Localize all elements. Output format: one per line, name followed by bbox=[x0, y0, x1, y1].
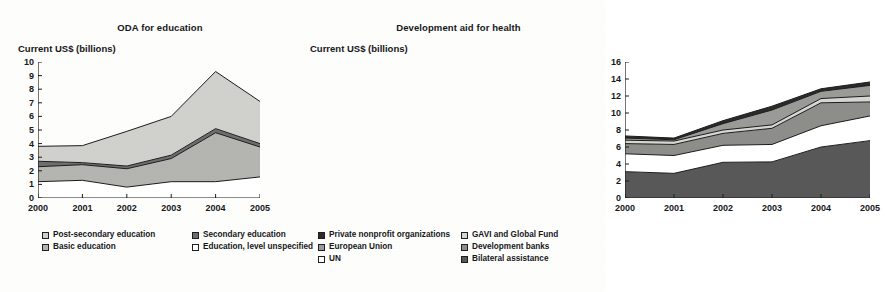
legend-health: Private nonprofit organizations GAVI and… bbox=[318, 231, 558, 264]
y-tick-label: 0 bbox=[16, 193, 34, 203]
legend-item-label: Bilateral assistance bbox=[472, 255, 548, 263]
y-tick-label: 9 bbox=[16, 71, 34, 81]
chart-title-health: Development aid for health bbox=[300, 22, 611, 33]
legend-swatch-icon bbox=[461, 256, 468, 263]
x-tick-label: 2001 bbox=[66, 203, 98, 213]
legend-item-basic-education: Basic education bbox=[42, 243, 192, 251]
legend-swatch-icon bbox=[461, 232, 468, 239]
legend-item-education-level-unspecified: Education, level unspecified bbox=[192, 243, 313, 251]
y-tick-label: 2 bbox=[603, 176, 621, 186]
legend-swatch-icon bbox=[42, 244, 49, 251]
y-tick-label: 5 bbox=[16, 125, 34, 135]
x-tick-label: 2002 bbox=[111, 203, 143, 213]
legend-item-european-union: European Union bbox=[318, 243, 461, 251]
legend-item-secondary-education: Secondary education bbox=[192, 231, 313, 239]
y-tick-label: 8 bbox=[16, 84, 34, 94]
legend-swatch-icon bbox=[318, 232, 325, 239]
legend-swatch-icon bbox=[192, 232, 199, 239]
x-tick-label: 2004 bbox=[805, 203, 837, 213]
legend-item-label: Basic education bbox=[53, 243, 116, 251]
y-tick-label: 3 bbox=[16, 152, 34, 162]
legend-swatch-icon bbox=[318, 256, 325, 263]
x-tick-label: 2003 bbox=[155, 203, 187, 213]
y-tick-label: 12 bbox=[603, 91, 621, 101]
y-tick-label: 4 bbox=[603, 159, 621, 169]
y-tick-label: 2 bbox=[16, 166, 34, 176]
y-tick-label: 14 bbox=[603, 74, 621, 84]
y-tick-label: 8 bbox=[603, 125, 621, 135]
y-tick-label: 0 bbox=[603, 193, 621, 203]
x-tick-label: 2005 bbox=[854, 203, 885, 213]
area-chart-health bbox=[625, 62, 870, 198]
x-tick-label: 2002 bbox=[707, 203, 739, 213]
legend-item-post-secondary-education: Post-secondary education bbox=[42, 231, 192, 239]
legend-item-gavi-and-global-fund: GAVI and Global Fund bbox=[461, 231, 558, 239]
legend-item-label: European Union bbox=[329, 243, 392, 251]
y-tick-label: 6 bbox=[603, 142, 621, 152]
legend-item-label: Education, level unspecified bbox=[203, 243, 313, 251]
legend-item-un: UN bbox=[318, 255, 461, 263]
y-tick-label: 6 bbox=[16, 111, 34, 121]
x-tick-label: 2001 bbox=[658, 203, 690, 213]
legend-item-label: UN bbox=[329, 255, 341, 263]
legend-education: Post-secondary education Secondary educa… bbox=[42, 231, 313, 251]
y-tick-label: 1 bbox=[16, 179, 34, 189]
y-tick-label: 4 bbox=[16, 139, 34, 149]
x-tick-label: 2000 bbox=[22, 203, 54, 213]
plot-area-health bbox=[625, 62, 870, 198]
legend-swatch-icon bbox=[192, 244, 199, 251]
chart-title-education: ODA for education bbox=[0, 22, 310, 33]
legend-swatch-icon bbox=[42, 232, 49, 239]
y-axis-caption-health: Current US$ (billions) bbox=[310, 43, 408, 54]
legend-item-bilateral-assistance: Bilateral assistance bbox=[461, 255, 558, 263]
x-tick-label: 2005 bbox=[244, 203, 276, 213]
y-tick-label: 10 bbox=[603, 108, 621, 118]
area-chart-education bbox=[38, 62, 260, 198]
x-tick-label: 2004 bbox=[200, 203, 232, 213]
legend-item-private-nonprofit-organizations: Private nonprofit organizations bbox=[318, 231, 461, 239]
y-axis-caption-education: Current US$ (billions) bbox=[18, 43, 116, 54]
plot-area-education bbox=[38, 62, 260, 198]
x-tick-label: 2000 bbox=[609, 203, 641, 213]
legend-item-label: Development banks bbox=[472, 243, 549, 251]
legend-item-label: Private nonprofit organizations bbox=[329, 231, 450, 239]
legend-swatch-icon bbox=[318, 244, 325, 251]
x-tick-label: 2003 bbox=[756, 203, 788, 213]
legend-item-label: Secondary education bbox=[203, 231, 286, 239]
legend-item-label: GAVI and Global Fund bbox=[472, 231, 558, 239]
y-tick-label: 10 bbox=[16, 57, 34, 67]
legend-item-development-banks: Development banks bbox=[461, 243, 558, 251]
y-tick-label: 16 bbox=[603, 57, 621, 67]
legend-swatch-icon bbox=[461, 244, 468, 251]
y-tick-label: 7 bbox=[16, 98, 34, 108]
legend-item-label: Post-secondary education bbox=[53, 231, 155, 239]
